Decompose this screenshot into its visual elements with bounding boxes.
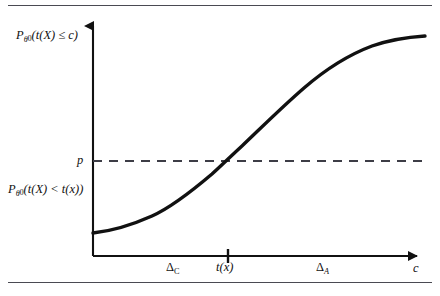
delta-a-subscript: A [324,267,329,276]
delta-c-symbol: Δ [166,260,174,274]
x-axis-label-delta-c: ΔC [166,261,180,276]
p-level-label: p [77,154,83,167]
upper-label-expression: (t(X) ≤ c) [32,28,78,42]
delta-a-symbol: Δ [316,260,324,274]
cdf-curve [93,36,425,233]
x-axis-label-delta-a: ΔA [316,261,329,276]
figure-container: Pθ0(t(X) ≤ c) Pθ0(t(X) < t(x)) p ΔC t(x)… [0,0,440,296]
x-axis-label-tx: t(x) [216,261,233,274]
delta-c-subscript: C [174,267,180,276]
x-axis-label-c: c [413,262,419,275]
lower-label-base: P [8,182,16,196]
lower-left-probability-label: Pθ0(t(X) < t(x)) [8,183,83,198]
lower-label-expression: (t(X) < t(x)) [24,182,84,196]
upper-label-base: P [16,28,24,42]
plot-canvas [0,0,440,296]
upper-left-probability-label: Pθ0(t(X) ≤ c) [16,29,78,44]
